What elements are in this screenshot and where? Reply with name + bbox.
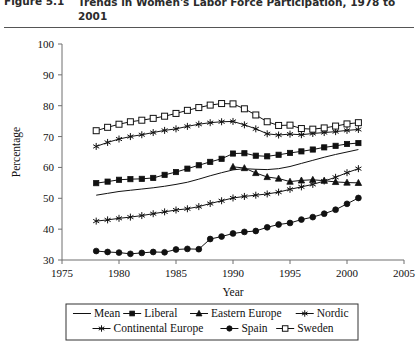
x-tick-label: 1990 — [222, 267, 245, 279]
y-tick-label: 100 — [38, 38, 55, 50]
legend-label: Spain — [241, 322, 267, 335]
legend-label: Eastern Europe — [211, 307, 282, 320]
series-continental-europe — [93, 165, 361, 224]
y-tick-label: 60 — [43, 161, 55, 173]
x-axis-title: Year — [222, 286, 243, 298]
legend-label: Nordic — [317, 307, 349, 319]
x-tick-label: 1985 — [165, 267, 188, 279]
y-tick-label: 90 — [43, 69, 55, 81]
y-tick-label: 30 — [43, 254, 55, 266]
series-sweden — [93, 101, 361, 134]
figure-container: Figure 5.1 Trends in Women's Labor Force… — [0, 0, 418, 350]
legend-label: Liberal — [144, 307, 177, 319]
caption-divider — [4, 27, 414, 28]
line-chart: 30405060708090100 1975198019851990199520… — [0, 34, 418, 350]
x-tick-label: 1975 — [51, 267, 74, 279]
plot-area: 30405060708090100 1975198019851990199520… — [0, 34, 418, 296]
legend-label: Mean — [94, 307, 120, 319]
x-tick-label: 1980 — [108, 267, 131, 279]
x-tick-labels: 1975198019851990199520002005 — [51, 267, 416, 279]
x-tick-label: 1995 — [279, 267, 302, 279]
y-tick-labels: 30405060708090100 — [38, 38, 55, 266]
legend-item-mean[interactable]: Mean — [73, 307, 120, 319]
y-tick-label: 80 — [43, 100, 55, 112]
x-tick-label: 2000 — [336, 267, 359, 279]
x-tick-label: 2005 — [393, 267, 416, 279]
legend-label: Sweden — [297, 322, 334, 334]
y-tick-label: 70 — [43, 131, 55, 143]
legend-item-liberal[interactable]: Liberal — [123, 307, 177, 319]
series-spain — [93, 195, 361, 257]
legend-item-continental-europe[interactable]: Continental Europe — [93, 322, 204, 335]
chart-legend: MeanLiberalEastern EuropeNordicContinent… — [66, 304, 358, 340]
figure-label: Figure 5.1 — [4, 0, 64, 7]
legend-item-eastern-europe[interactable]: Eastern Europe — [190, 307, 282, 320]
y-axis-title: Percentage — [10, 127, 23, 177]
figure-title: Trends in Women's Labor Force Participat… — [78, 0, 408, 23]
legend-item-sweden[interactable]: Sweden — [276, 322, 334, 334]
series-liberal — [94, 140, 361, 185]
figure-caption: Figure 5.1 Trends in Women's Labor Force… — [0, 0, 418, 24]
series-layer — [93, 101, 361, 257]
legend-item-spain[interactable]: Spain — [220, 322, 267, 335]
y-tick-label: 50 — [43, 192, 55, 204]
y-tick-label: 40 — [43, 223, 55, 235]
legend-label: Continental Europe — [114, 322, 204, 335]
legend-item-nordic[interactable]: Nordic — [296, 307, 349, 319]
